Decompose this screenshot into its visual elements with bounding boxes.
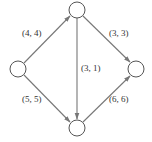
node-top (69, 2, 85, 18)
node-left (10, 61, 26, 77)
node-right (128, 61, 144, 77)
flow-network-diagram: (4, 4) (3, 3) (3, 1) (5, 5) (6, 6) (0, 0, 152, 142)
edge-label-left-top: (4, 4) (22, 28, 42, 38)
edge-label-bottom-right: (6, 6) (109, 94, 129, 104)
node-bottom (69, 120, 85, 136)
edge-label-left-bottom: (5, 5) (22, 94, 42, 104)
edge-label-top-bottom: (3, 1) (81, 63, 101, 73)
edge-left-to-top (24, 16, 70, 63)
edge-label-top-right: (3, 3) (109, 28, 129, 38)
edge-top-to-right (83, 16, 130, 62)
